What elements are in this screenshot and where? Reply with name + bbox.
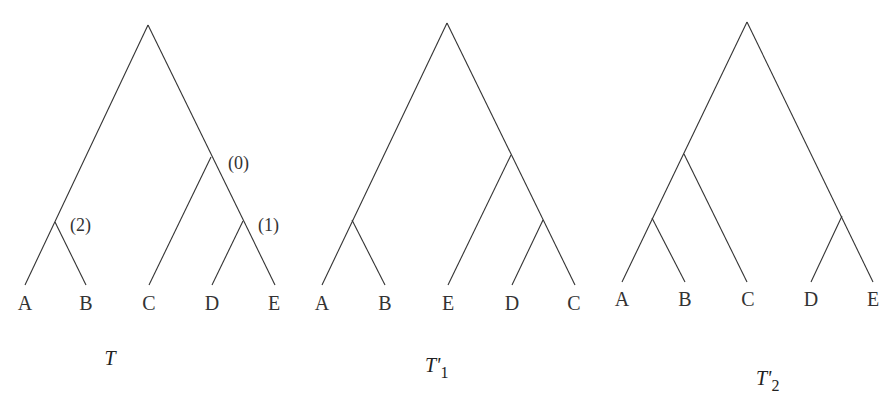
edge-EDC-E	[448, 155, 511, 285]
edge-root-C	[447, 23, 575, 285]
tree-title-T-prime-2: T'2	[756, 367, 779, 394]
edge-root-A	[25, 25, 148, 285]
node-label-1: (1)	[258, 215, 279, 236]
tree-diagram-canvas: (0) (1) (2) A B C D E T A B E D C T'1 A …	[0, 0, 894, 401]
edge-node1-D	[212, 221, 243, 285]
edge-AB-B	[652, 218, 685, 282]
leaf-label: A	[615, 288, 630, 310]
leaf-label: B	[79, 292, 92, 314]
leaf-label: C	[741, 288, 754, 310]
edge-ABC-C	[684, 154, 747, 282]
edge-node0-C	[149, 157, 211, 285]
tree-title-T-prime-1: T'1	[425, 354, 448, 381]
tree-T: (0) (1) (2) A B C D E T	[18, 25, 280, 369]
leaf-label: D	[205, 292, 219, 314]
tree-T-prime-2: A B C D E T'2	[615, 22, 879, 394]
edge-root-A	[322, 23, 447, 285]
leaf-label: C	[567, 292, 580, 314]
leaf-label: A	[315, 292, 330, 314]
node-label-0: (0)	[228, 153, 249, 174]
edge-root-E	[148, 25, 275, 285]
leaf-label: E	[442, 292, 454, 314]
leaf-label: A	[18, 292, 33, 314]
leaf-label: E	[268, 292, 280, 314]
node-label-2: (2)	[70, 215, 91, 236]
edge-root-E	[747, 22, 873, 282]
edge-DC-D	[512, 220, 543, 285]
edge-AB-B	[352, 220, 385, 285]
edge-DE-D	[811, 216, 842, 282]
leaf-label: B	[678, 288, 691, 310]
tree-title-T: T	[104, 347, 117, 369]
leaf-label: D	[804, 288, 818, 310]
leaf-label: B	[378, 292, 391, 314]
tree-T-prime-1: A B E D C T'1	[315, 23, 581, 381]
leaf-label: C	[142, 292, 155, 314]
leaf-label: E	[867, 288, 879, 310]
leaf-label: D	[505, 292, 519, 314]
